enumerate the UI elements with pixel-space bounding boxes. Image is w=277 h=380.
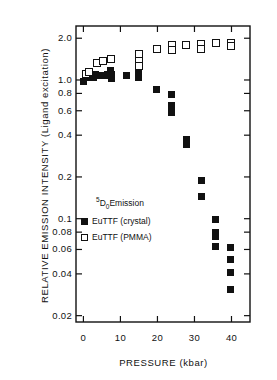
data-point-crystal <box>227 269 234 276</box>
data-point-pmma <box>107 55 115 63</box>
data-point-pmma <box>168 46 176 54</box>
y-tick-label: 0.8 <box>28 87 72 98</box>
x-tick-label: 10 <box>102 332 138 343</box>
data-point-crystal <box>183 141 190 148</box>
x-tick-label: 0 <box>65 332 101 343</box>
data-point-crystal <box>198 193 205 200</box>
data-point-crystal <box>168 91 175 98</box>
y-tick-label: 0.1 <box>28 213 72 224</box>
legend-entry-crystal: EuTTF (crystal) <box>81 216 151 226</box>
data-point-pmma <box>182 41 190 49</box>
y-tick-label: 0.4 <box>28 129 72 140</box>
data-point-crystal <box>212 233 219 240</box>
legend-entry-pmma: EuTTF (PMMA) <box>81 232 152 242</box>
data-point-pmma <box>135 62 143 70</box>
data-point-crystal <box>168 109 175 116</box>
x-tick-label: 30 <box>176 332 212 343</box>
y-tick-label: 0.6 <box>28 105 72 116</box>
data-point-pmma <box>197 45 205 53</box>
legend-title-word: Emission <box>109 198 143 208</box>
data-point-pmma <box>227 42 235 50</box>
data-point-crystal <box>212 216 219 223</box>
y-tick-label: 0.2 <box>28 171 72 182</box>
filled-square-icon <box>81 218 88 225</box>
data-point-crystal <box>108 75 115 82</box>
y-axis-title: RELATIVE EMISSION INTENSITY (Ligand exci… <box>39 26 50 326</box>
y-tick-label: 0.04 <box>28 268 72 279</box>
x-tick-label: 40 <box>213 332 249 343</box>
data-point-pmma <box>153 45 161 53</box>
x-axis-title: PRESSURE (kbar) <box>76 357 251 368</box>
emission-intensity-scatter-chart: 2.01.00.80.60.40.20.10.080.060.040.02 01… <box>0 0 277 380</box>
data-point-crystal <box>135 74 142 81</box>
data-point-crystal <box>227 256 234 263</box>
y-tick-label: 0.06 <box>28 243 72 254</box>
data-point-crystal <box>227 244 234 251</box>
open-square-icon <box>81 234 88 241</box>
data-point-crystal <box>153 86 160 93</box>
y-tick-label: 2.0 <box>28 32 72 43</box>
legend-entry-crystal-label: EuTTF (crystal) <box>92 216 151 226</box>
data-point-crystal <box>123 72 130 79</box>
legend-entry-pmma-label: EuTTF (PMMA) <box>92 232 152 242</box>
data-point-crystal <box>212 243 219 250</box>
data-point-crystal <box>227 286 234 293</box>
legend-title: 5D0Emission <box>96 196 144 210</box>
data-point-crystal <box>198 177 205 184</box>
data-point-pmma <box>85 68 93 76</box>
x-tick-label: 20 <box>139 332 175 343</box>
y-tick-label: 1.0 <box>28 74 72 85</box>
y-tick-label: 0.02 <box>28 310 72 321</box>
y-tick-label: 0.08 <box>28 226 72 237</box>
data-point-pmma <box>212 39 220 47</box>
